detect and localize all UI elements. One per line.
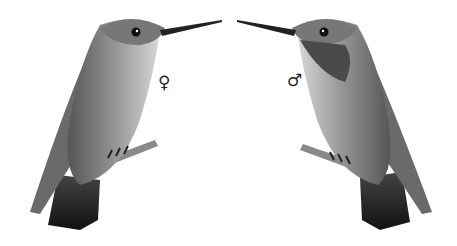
eye [132,28,141,37]
female-hummingbird [30,19,222,230]
eye [320,28,329,37]
male-symbol: ♂ [287,72,302,89]
beak [160,20,222,36]
female-symbol: ♀ [158,74,170,91]
hummingbird-illustration: ♀ ♂ [0,0,457,246]
beak [237,20,296,36]
birds-drawing [0,0,457,246]
body [68,20,160,185]
male-hummingbird [237,19,432,230]
